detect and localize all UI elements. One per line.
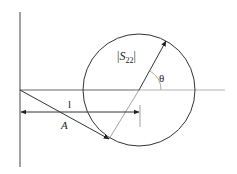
vector-a-label: A [60, 119, 68, 131]
vector-a [20, 90, 109, 139]
diameter-line-lower [109, 90, 139, 139]
theta-label: θ [159, 72, 164, 84]
s22-label: |S22| [117, 49, 136, 65]
s-parameter-circle-diagram: |S22| θ l A [0, 0, 237, 174]
length-label: l [68, 98, 71, 110]
